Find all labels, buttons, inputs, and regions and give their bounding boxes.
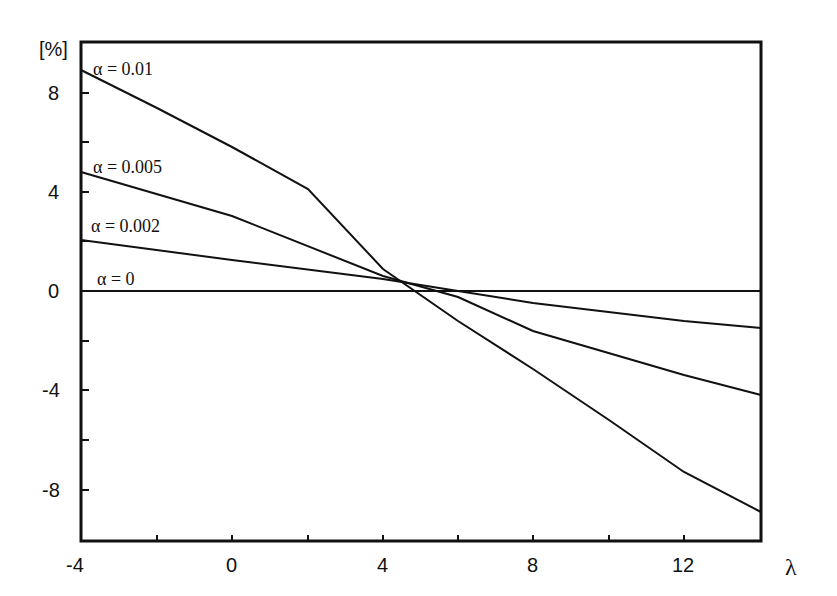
series-line-alpha-0.005 [81,172,761,395]
y-tick-label-minus4: -4 [42,379,60,401]
y-tick-label-minus8: -8 [42,479,60,501]
x-tick-label-8: 8 [527,554,538,576]
x-axis-label: λ [785,554,797,580]
series-label-alpha-0: α = 0 [97,269,135,289]
line-chart: 8 4 0 -4 -8 [%] -4 0 4 8 12 λ α = 0.01 α… [0,0,837,596]
series-label-alpha-0.005: α = 0.005 [93,157,162,177]
y-axis-unit: [%] [39,38,68,60]
y-tick-label-4: 4 [48,181,59,203]
x-tick-label-4: 4 [377,554,388,576]
series-label-alpha-0.002: α = 0.002 [91,216,160,236]
series-line-alpha-0.002 [81,240,761,328]
y-tick-label-0: 0 [48,280,59,302]
x-tick-label-0: 0 [226,554,237,576]
y-tick-label-8: 8 [48,82,59,104]
x-tick-label-12: 12 [672,554,694,576]
x-tick-label-minus4: -4 [66,554,84,576]
series-label-alpha-0.01: α = 0.01 [93,59,153,79]
